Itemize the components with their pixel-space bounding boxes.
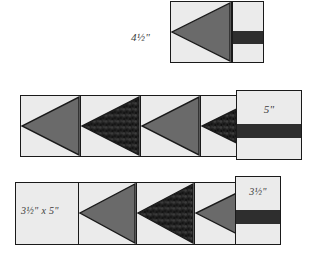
swatch-band-top [233,31,263,44]
middle-geese-strip [20,95,263,157]
swatch-band-bottom [236,210,280,224]
top-geese-block [170,1,232,63]
geese-unit [81,96,141,156]
geese-triangle-solid [79,183,136,244]
swatch-band-middle [237,124,301,138]
geese-triangle-print [137,183,194,244]
label-unit: 3½" x 5" [16,183,79,244]
geese-triangle-solid [21,96,80,156]
geese-unit [21,96,81,156]
geese-unit [141,96,201,156]
geese-triangle-solid [141,96,200,156]
measurement-label-top: 4½" [131,31,150,43]
middle-reference-swatch: 5" [236,90,302,160]
measurement-label-bottom: 3½" x 5" [21,205,59,216]
geese-unit [79,183,137,244]
geese-triangle-solid [171,2,231,62]
geese-unit [137,183,195,244]
bottom-geese-strip: 3½" x 5" [15,182,257,245]
geese-triangle-print [81,96,140,156]
swatch-label-5in: 5" [237,103,301,115]
swatch-label-3half-in: 3½" [236,186,280,197]
bottom-reference-swatch: 3½" [235,176,281,245]
top-reference-swatch [232,1,264,63]
diagram-canvas: 4½" [0,0,333,256]
